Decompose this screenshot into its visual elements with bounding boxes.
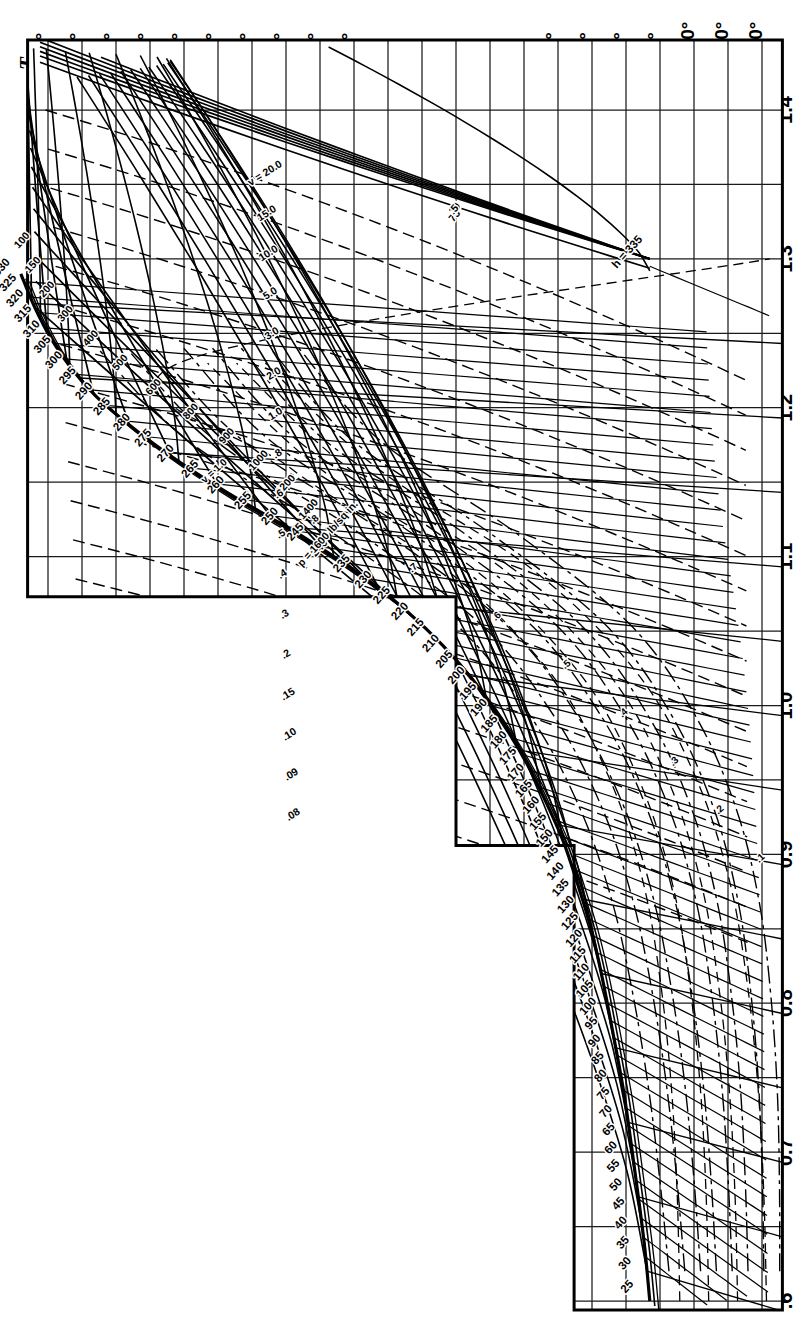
mollier-diagram-page: 280°260°240°220°200°180°160°140°120°100°… (0, 0, 806, 1326)
mollier-chart-svg: 280°260°240°220°200°180°160°140°120°100°… (0, 0, 806, 1326)
